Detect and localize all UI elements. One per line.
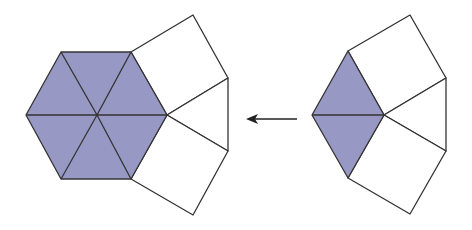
hexagon-figure [26, 15, 228, 215]
rhombus-figure [312, 15, 446, 214]
diagram-canvas [0, 0, 472, 230]
left-arrow-icon [246, 114, 297, 124]
